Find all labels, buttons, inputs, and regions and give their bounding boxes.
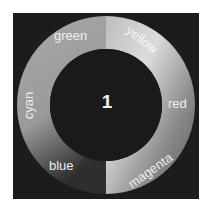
center-number: 1 [99,91,115,113]
label-green: green [54,28,87,43]
label-blue: blue [49,158,74,173]
label-red: red [168,96,187,111]
label-cyan: cyan [21,92,36,119]
